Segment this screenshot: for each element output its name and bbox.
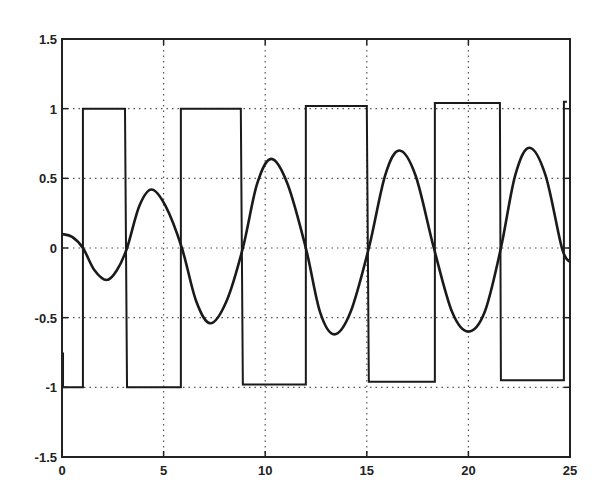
x-tick-label: 10 (258, 463, 272, 478)
y-axis-labels: -1.5-1-0.500.511.5 (35, 32, 57, 465)
x-tick-label: 15 (360, 463, 374, 478)
x-tick-label: 25 (563, 463, 577, 478)
y-tick-label: 1 (50, 102, 57, 117)
y-tick-label: -1.5 (35, 450, 57, 465)
square-wave-line (63, 102, 567, 388)
y-tick-label: 0.5 (39, 171, 57, 186)
y-tick-label: 0 (50, 241, 57, 256)
sine-response-line (62, 148, 570, 335)
line-chart: 0510152025 -1.5-1-0.500.511.5 (0, 0, 604, 499)
x-tick-label: 20 (461, 463, 475, 478)
y-tick-label: -0.5 (35, 311, 57, 326)
x-axis-labels: 0510152025 (58, 463, 577, 478)
x-tick-label: 5 (160, 463, 167, 478)
y-tick-label: -1 (45, 380, 57, 395)
y-tick-label: 1.5 (39, 32, 57, 47)
x-tick-label: 0 (58, 463, 65, 478)
data-series (62, 102, 570, 388)
grid (62, 39, 570, 457)
